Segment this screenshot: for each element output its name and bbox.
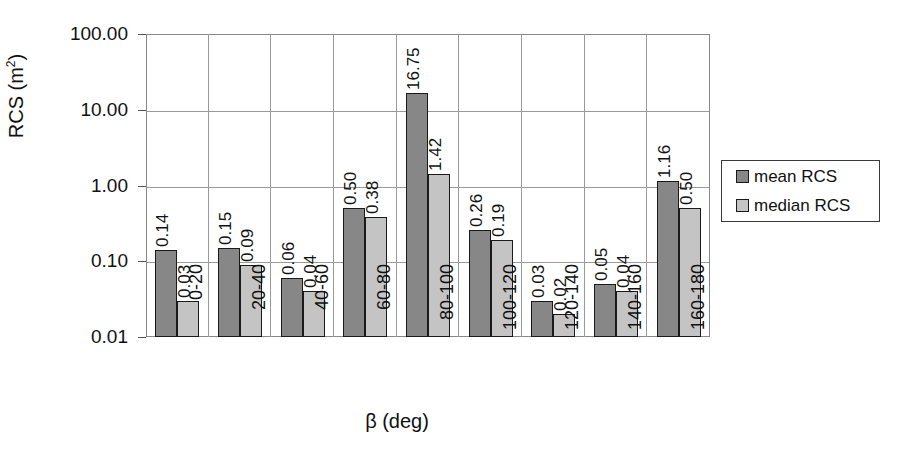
x-axis-tick-cell: 160-180 <box>647 338 710 416</box>
bar-mean[interactable]: 0.50 <box>343 208 365 337</box>
x-axis-tick-label: 140-160 <box>625 264 646 342</box>
y-axis-tick-label: 100.00 <box>8 23 128 45</box>
x-axis-tick-cell: 20-40 <box>209 338 272 416</box>
x-axis-tick-cell: 80-100 <box>397 338 460 416</box>
legend-label-median: median RCS <box>754 196 850 216</box>
x-axis-tick-label: 160-180 <box>688 264 709 342</box>
x-axis-tick-label: 20-40 <box>249 264 270 342</box>
x-axis-tick-cell: 0-20 <box>146 338 209 416</box>
bar-mean[interactable]: 0.05 <box>594 284 616 337</box>
x-axis-tick-cell: 100-120 <box>459 338 522 416</box>
y-axis-tick-label: 0.01 <box>8 326 128 348</box>
x-axis-tick-label: 0-20 <box>186 264 207 342</box>
bar-mean[interactable]: 0.06 <box>281 278 303 337</box>
y-axis-tick-mark <box>138 261 146 262</box>
bar-mean[interactable]: 0.15 <box>218 248 240 337</box>
y-axis-tick-mark <box>138 110 146 111</box>
legend-item-mean: mean RCS <box>736 167 879 187</box>
y-axis-tick-label: 10.00 <box>8 99 128 121</box>
y-axis-title-exponent: 2 <box>4 60 18 67</box>
bar-value-label: 0.09 <box>238 229 258 262</box>
bar-value-label: 0.15 <box>216 212 236 245</box>
bar-value-label: 0.19 <box>489 204 509 237</box>
y-axis-title-close: ) <box>5 54 27 61</box>
bar-mean[interactable]: 0.26 <box>469 230 491 337</box>
legend-swatch-median-icon <box>736 199 749 212</box>
x-axis-title: β (deg) <box>0 410 914 433</box>
legend-swatch-mean-icon <box>736 170 749 183</box>
x-axis-tick-label: 80-100 <box>437 264 458 342</box>
bar-value-label: 0.14 <box>153 214 173 247</box>
bar-mean[interactable]: 16.75 <box>406 93 428 337</box>
x-axis-tick-label: 100-120 <box>500 264 521 342</box>
bar-mean[interactable]: 1.16 <box>657 181 679 337</box>
bar-value-label: 16.75 <box>404 47 424 90</box>
bar-value-label: 1.42 <box>426 138 446 171</box>
bar-value-label: 0.50 <box>677 172 697 205</box>
y-axis-tick-label: 0.10 <box>8 250 128 272</box>
x-axis-tick-label: 40-60 <box>312 264 333 342</box>
bar-value-label: 0.05 <box>592 248 612 281</box>
y-axis-tick-label: 1.00 <box>8 175 128 197</box>
bar-value-label: 0.26 <box>467 194 487 227</box>
x-axis-tick-label: 120-140 <box>562 264 583 342</box>
rcs-bar-chart: RCS (m2) 100.0010.001.000.100.01 0.140.0… <box>0 0 914 460</box>
y-axis-tick-mark <box>138 186 146 187</box>
x-axis-tick-cell: 120-140 <box>522 338 585 416</box>
y-axis-tick-mark <box>138 337 146 338</box>
x-axis-tick-cell: 60-80 <box>334 338 397 416</box>
x-axis-tick-cell: 40-60 <box>271 338 334 416</box>
bar-value-label: 1.16 <box>655 145 675 178</box>
chart-legend: mean RCS median RCS <box>721 160 880 222</box>
x-axis-tick-cell: 140-160 <box>585 338 648 416</box>
x-axis-tick-label: 60-80 <box>374 264 395 342</box>
y-axis-tick-mark <box>138 34 146 35</box>
x-axis-tick-labels: 0-2020-4040-6060-8080-100100-120120-1401… <box>146 338 710 416</box>
bar-value-label: 0.06 <box>279 242 299 275</box>
bar-value-label: 0.38 <box>363 181 383 214</box>
bar-value-label: 0.03 <box>529 265 549 298</box>
bar-value-label: 0.50 <box>341 172 361 205</box>
legend-item-median: median RCS <box>736 196 879 216</box>
legend-label-mean: mean RCS <box>754 167 837 187</box>
x-axis-title-text: β (deg) <box>365 410 429 432</box>
